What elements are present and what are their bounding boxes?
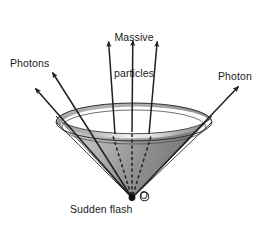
sudden-flash-label: Sudden flash [70,203,133,215]
photons-left-label: Photons [10,57,49,69]
origin-point-label: O [140,190,148,202]
light-cone-figure: Massive particles Photons Photon Sudden … [0,0,274,227]
massive-particles-label-line1: Massive [92,31,176,43]
origin-point-dot [129,194,136,201]
cone-group [56,103,212,198]
massive-particles-label-line2: particles [92,67,176,79]
massive-particles-label: Massive particles [92,7,176,103]
photon-right-label: Photon [218,70,252,82]
